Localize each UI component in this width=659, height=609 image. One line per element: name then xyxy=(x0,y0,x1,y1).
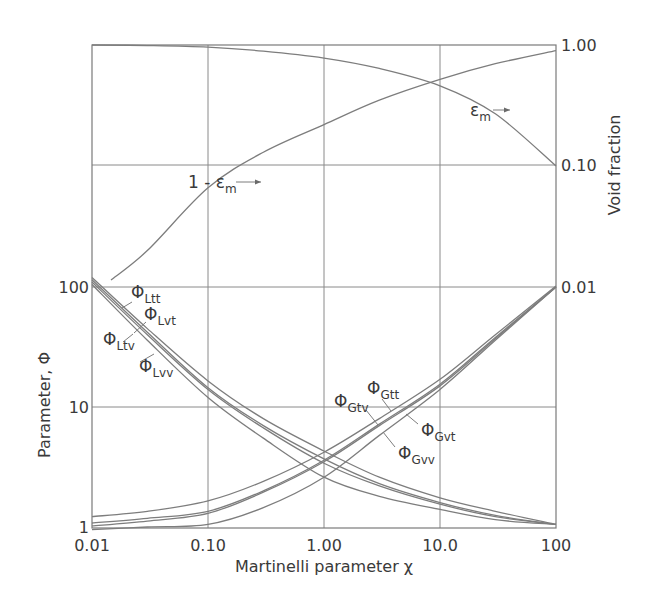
x-tick-label: 0.01 xyxy=(74,536,110,555)
y2-tick-label: 0.10 xyxy=(561,156,597,175)
label-ltv: ΦLtv xyxy=(103,329,135,353)
leader-line xyxy=(406,414,418,424)
leader-line xyxy=(383,432,395,447)
arrow-head-icon xyxy=(255,180,261,185)
y-axis-label: Parameter, Φ xyxy=(35,352,54,458)
y2-axis-ticks: 1.000.100.01 xyxy=(561,36,597,297)
leader-line xyxy=(122,302,132,308)
label-ltt: ΦLtt xyxy=(131,282,161,306)
arrow-head-icon xyxy=(504,108,510,113)
label-gvt: ΦGvt xyxy=(421,420,456,444)
label-gvv: ΦGvv xyxy=(398,443,435,467)
y-axis-ticks: 110100 xyxy=(58,278,89,537)
label-gtv: ΦGtv xyxy=(334,391,369,415)
y2-axis-label: Void fraction xyxy=(605,115,624,216)
y-tick-label: 10 xyxy=(69,398,89,417)
label-lvv: ΦLvv xyxy=(139,356,173,380)
y2-tick-label: 0.01 xyxy=(561,278,597,297)
chart-canvas: 0.010.101.0010.0100 110100 1.000.100.01 … xyxy=(0,0,659,609)
label-leaders xyxy=(122,108,510,448)
x-axis-ticks: 0.010.101.0010.0100 xyxy=(74,536,571,555)
y-tick-label: 1 xyxy=(79,518,89,537)
x-axis-label: Martinelli parameter χ xyxy=(235,557,413,576)
x-tick-label: 0.10 xyxy=(190,536,226,555)
x-tick-label: 100 xyxy=(541,536,572,555)
label-void-fraction: εm xyxy=(470,100,491,124)
x-tick-label: 1.00 xyxy=(306,536,342,555)
y-tick-label: 100 xyxy=(58,278,89,297)
label-one-minus-void-fraction: 1 - εm xyxy=(188,172,237,196)
label-gtt: ΦGtt xyxy=(367,378,399,402)
label-lvt: ΦLvt xyxy=(144,304,176,328)
x-tick-label: 10.0 xyxy=(422,536,458,555)
y2-tick-label: 1.00 xyxy=(561,36,597,55)
series-labels: ΦLttΦLvtΦLtvΦLvvΦGttΦGtvΦGvtΦGvvεm1 - εm xyxy=(103,100,491,467)
